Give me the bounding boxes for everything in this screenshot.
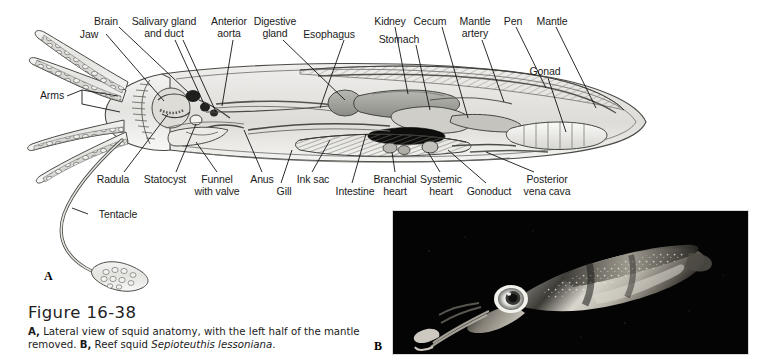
label-branchial-heart: Branchial heart xyxy=(374,174,417,197)
caption-b-marker: B, xyxy=(80,339,92,350)
label-mantle: Mantle xyxy=(537,16,568,28)
label-kidney: Kidney xyxy=(374,16,406,28)
reef-squid-photo xyxy=(392,210,749,355)
label-stomach: Stomach xyxy=(379,34,420,46)
label-ink-sac: Ink sac xyxy=(297,174,330,186)
caption-removed-word: removed. xyxy=(28,339,80,350)
label-radula: Radula xyxy=(97,174,130,186)
label-arms: Arms xyxy=(40,90,64,102)
label-gill: Gill xyxy=(277,186,292,198)
label-tentacle: Tentacle xyxy=(99,209,137,221)
label-esophagus: Esophagus xyxy=(303,29,355,41)
label-anus: Anus xyxy=(250,174,274,186)
caption-a-marker: A, xyxy=(28,326,40,337)
label-gonad: Gonad xyxy=(529,66,560,78)
label-jaw: Jaw xyxy=(80,29,98,41)
caption-line-2-mid: Reef squid xyxy=(91,339,151,350)
label-systemic-heart: Systemic heart xyxy=(420,174,462,197)
label-anterior-aorta: Anterior aorta xyxy=(211,16,247,39)
label-intestine: Intestine xyxy=(336,186,375,198)
label-statocyst: Statocyst xyxy=(144,174,186,186)
figure-page: Brain Jaw Salivary gland and duct Anteri… xyxy=(0,0,767,364)
label-mantle-artery: Mantle artery xyxy=(460,16,491,39)
panel-letter-b: B xyxy=(374,339,382,354)
figure-caption-text: A, Lateral view of squid anatomy, with t… xyxy=(28,325,368,351)
label-gonoduct: Gonoduct xyxy=(467,186,512,198)
label-cecum: Cecum xyxy=(414,16,447,28)
label-pen: Pen xyxy=(504,16,522,28)
panel-letter-a: A xyxy=(44,269,53,284)
label-posterior-vena-cava: Posterior vena cava xyxy=(524,174,571,197)
caption-period: . xyxy=(272,339,275,350)
caption-line-1: Lateral view of squid anatomy, with the … xyxy=(40,326,360,337)
figure-number: Figure 16-38 xyxy=(28,303,368,322)
label-digestive-gland: Digestive gland xyxy=(254,16,296,39)
label-brain: Brain xyxy=(94,16,118,28)
label-salivary-gland: Salivary gland and duct xyxy=(132,16,197,39)
label-funnel-with-valve: Funnel with valve xyxy=(194,174,239,197)
species-name: Sepioteuthis lessoniana xyxy=(151,339,272,350)
figure-caption: Figure 16-38 A, Lateral view of squid an… xyxy=(28,303,368,351)
